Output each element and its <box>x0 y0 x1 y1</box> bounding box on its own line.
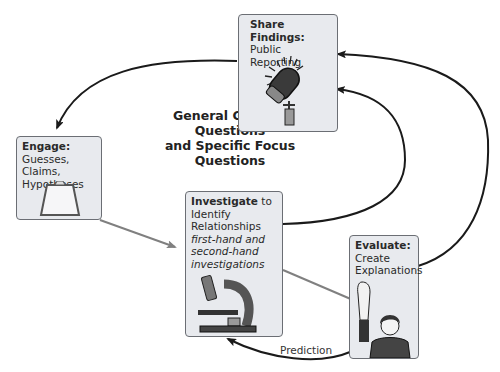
microphone-icon <box>259 53 319 129</box>
node-evaluate: Evaluate: Create Explanations <box>349 235 419 359</box>
clipboard-icon <box>35 181 85 217</box>
node-title: Share Findings: <box>250 18 305 43</box>
edge-engage-to-investigate <box>100 220 175 247</box>
edge-label-prediction: Prediction <box>280 344 332 356</box>
node-share-findings: Share Findings: Public Reporting <box>238 14 338 132</box>
node-investigate: Investigate to Identify Relationships fi… <box>185 191 283 337</box>
node-title: Engage: <box>22 140 70 152</box>
node-title: Evaluate: <box>355 239 411 251</box>
node-title: Investigate <box>191 195 258 207</box>
student-raising-hand-icon <box>354 280 416 358</box>
node-engage: Engage: Guesses, Claims, Hypotheses <box>16 136 102 220</box>
microscope-icon <box>194 274 274 336</box>
